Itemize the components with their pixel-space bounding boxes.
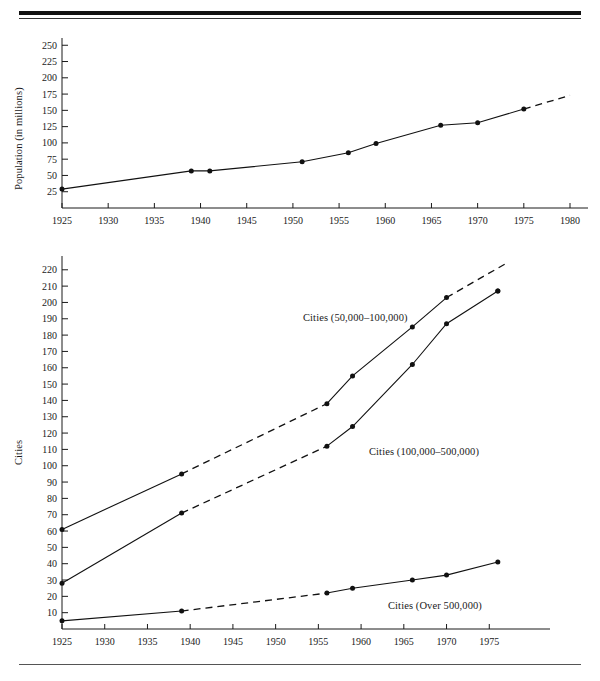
- data-point-marker: [179, 609, 184, 614]
- y-tick-label: 125: [42, 121, 57, 132]
- series-line-dashed: [182, 404, 327, 474]
- series-line: [62, 109, 524, 189]
- x-tick-label: 1965: [394, 636, 414, 647]
- data-point-marker: [324, 401, 329, 406]
- data-point-marker: [374, 141, 379, 146]
- x-tick-label: 1970: [468, 215, 488, 226]
- y-tick-label: 120: [42, 428, 57, 439]
- data-point-marker: [324, 591, 329, 596]
- data-point-marker: [495, 560, 500, 565]
- y-tick-label: 20: [47, 591, 57, 602]
- x-tick-label: 1960: [375, 215, 395, 226]
- top-thin-rule: [19, 18, 581, 19]
- y-tick-label: 220: [42, 264, 57, 275]
- y-tick-label: 140: [42, 395, 57, 406]
- data-point-marker: [521, 107, 526, 112]
- y-tick-label: 180: [42, 330, 57, 341]
- y-tick-label: 100: [42, 137, 57, 148]
- series-line-dashed: [182, 446, 327, 513]
- y-tick-label: 40: [47, 558, 57, 569]
- y-tick-label: 110: [42, 444, 57, 455]
- y-tick-label: 150: [42, 379, 57, 390]
- y-tick-label: 90: [47, 477, 57, 488]
- x-tick-label: 1945: [223, 636, 243, 647]
- cities-chart: 1020304050607080901001101201301401501601…: [0, 252, 600, 652]
- y-tick-label: 50: [47, 542, 57, 553]
- data-point-marker: [324, 444, 329, 449]
- data-point-marker: [207, 168, 212, 173]
- y-tick-label: 50: [47, 170, 57, 181]
- data-point-marker: [410, 324, 415, 329]
- top-thick-rule: [19, 11, 581, 15]
- x-tick-label: 1945: [237, 215, 257, 226]
- y-tick-label: 130: [42, 411, 57, 422]
- x-tick-label: 1950: [266, 636, 286, 647]
- cities-y-axis-title: Cities: [13, 440, 24, 465]
- x-tick-label: 1955: [308, 636, 328, 647]
- y-tick-label: 170: [42, 346, 57, 357]
- x-tick-label: 1960: [351, 636, 371, 647]
- data-point-marker: [495, 289, 500, 294]
- population-y-axis-title: Population (in millions): [13, 87, 24, 190]
- data-point-marker: [60, 581, 65, 586]
- y-tick-label: 30: [47, 575, 57, 586]
- data-point-marker: [179, 471, 184, 476]
- series-line-dashed: [182, 593, 327, 611]
- cities-chart-svg: 1020304050607080901001101201301401501601…: [0, 252, 600, 652]
- data-point-marker: [410, 578, 415, 583]
- page-canvas: 2550751001251501752002252501925193019351…: [0, 0, 600, 681]
- series-label-cities-over-500k: Cities (Over 500,000): [388, 600, 482, 611]
- y-tick-label: 70: [47, 509, 57, 520]
- x-tick-label: 1940: [180, 636, 200, 647]
- x-tick-label: 1925: [52, 636, 72, 647]
- x-tick-label: 1950: [283, 215, 303, 226]
- y-tick-label: 60: [47, 526, 57, 537]
- data-point-marker: [350, 373, 355, 378]
- y-tick-label: 175: [42, 89, 57, 100]
- x-tick-label: 1940: [191, 215, 211, 226]
- population-chart-svg: 2550751001251501752002252501925193019351…: [0, 34, 600, 239]
- data-point-marker: [179, 511, 184, 516]
- x-tick-label: 1925: [52, 215, 72, 226]
- data-point-marker: [189, 168, 194, 173]
- x-tick-label: 1955: [329, 215, 349, 226]
- y-tick-label: 160: [42, 362, 57, 373]
- data-point-marker: [300, 159, 305, 164]
- x-tick-label: 1975: [479, 636, 499, 647]
- series-extrapolation-dashed: [524, 95, 570, 109]
- series-line: [62, 513, 182, 583]
- data-point-marker: [60, 187, 65, 192]
- x-tick-label: 1930: [98, 215, 118, 226]
- data-point-marker: [60, 527, 65, 532]
- y-tick-label: 10: [47, 607, 57, 618]
- y-tick-label: 190: [42, 313, 57, 324]
- data-point-marker: [60, 618, 65, 623]
- data-point-marker: [444, 321, 449, 326]
- x-tick-label: 1965: [421, 215, 441, 226]
- data-point-marker: [350, 424, 355, 429]
- population-chart: 2550751001251501752002252501925193019351…: [0, 34, 600, 239]
- x-tick-label: 1975: [514, 215, 534, 226]
- data-point-marker: [444, 573, 449, 578]
- y-tick-label: 75: [47, 154, 57, 165]
- series-label-cities-100k-500k: Cities (100,000–500,000): [369, 446, 479, 457]
- series-label-cities-50k-100k: Cities (50,000–100,000): [303, 312, 408, 323]
- bottom-rule: [19, 664, 581, 665]
- y-tick-label: 25: [47, 186, 57, 197]
- data-point-marker: [346, 150, 351, 155]
- x-tick-label: 1930: [95, 636, 115, 647]
- x-tick-label: 1970: [437, 636, 457, 647]
- y-tick-label: 150: [42, 105, 57, 116]
- data-point-marker: [410, 362, 415, 367]
- x-tick-label: 1935: [137, 636, 157, 647]
- x-tick-label: 1980: [560, 215, 580, 226]
- series-line: [62, 474, 182, 530]
- data-point-marker: [350, 586, 355, 591]
- y-tick-label: 225: [42, 56, 57, 67]
- y-tick-label: 210: [42, 281, 57, 292]
- data-point-marker: [475, 120, 480, 125]
- x-tick-label: 1935: [144, 215, 164, 226]
- y-tick-label: 200: [42, 72, 57, 83]
- y-tick-label: 250: [42, 40, 57, 51]
- y-tick-label: 100: [42, 460, 57, 471]
